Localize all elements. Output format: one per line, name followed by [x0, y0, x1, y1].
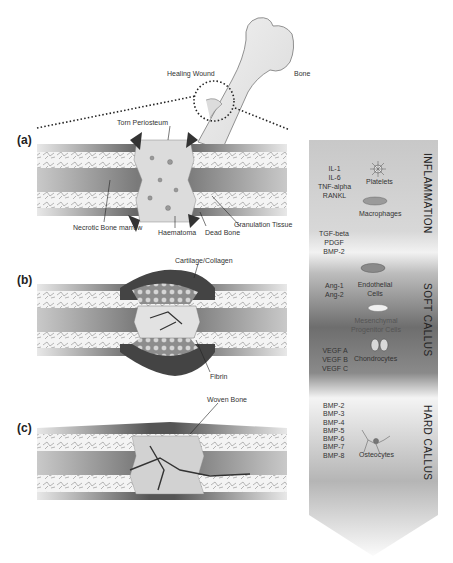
factor-pdgf: PDGF [319, 238, 349, 247]
macrophage-icon [363, 197, 387, 205]
osteocytes-label: Osteocytes [359, 451, 394, 458]
factor-bmp3: BMP-3 [323, 410, 344, 418]
factor-bmp4: BMP-4 [323, 419, 344, 427]
mesenchymal-cell-icon [368, 305, 388, 312]
healing-wound-label: Healing Wound [167, 70, 215, 77]
panel-a-letter: (a) [17, 133, 32, 147]
platelets-label: Platelets [366, 178, 393, 185]
granulation-tissue-label: Granulation Tissue [234, 221, 292, 228]
torn-periosteum-label: Torn Periosteum [117, 119, 168, 126]
factors-soft-1: Ang-1 Ang-2 [325, 281, 344, 299]
factor-tgf-beta: TGF-beta [319, 229, 349, 238]
mesenchymal-label: Mesenchymal Progenitor Cells [350, 316, 402, 334]
factor-rankl: RANKL [318, 191, 351, 200]
factor-vegf-c: VEGF C [322, 364, 348, 373]
macrophages-label: Macrophages [359, 210, 401, 217]
chondrocytes-label: Chondrocytes [354, 355, 397, 362]
stage-soft-callus: SOFT CALLUS [422, 283, 433, 357]
panel-b-letter: (b) [17, 273, 32, 287]
fibrin-label: Fibrin [210, 373, 228, 380]
woven-bone-label: Woven Bone [207, 396, 247, 403]
factor-bmp2: BMP-2 [319, 247, 349, 256]
factor-il1: IL-1 [318, 164, 351, 173]
endothelial-cell-icon [361, 264, 385, 273]
platelet-icon [370, 161, 386, 177]
stage-inflammation: INFLAMMATION [422, 153, 433, 234]
factor-bmp7: BMP-7 [323, 443, 344, 451]
factor-tnf-alpha: TNF-alpha [318, 182, 351, 191]
panel-c-graphic [37, 422, 287, 500]
factor-ang2: Ang-2 [325, 290, 344, 299]
factors-soft-2: VEGF A VEGF B VEGF C [322, 346, 348, 373]
factor-ang1: Ang-1 [325, 281, 344, 290]
bone-label: Bone [294, 70, 310, 77]
dead-bone-label: Dead Bone [205, 229, 240, 236]
panel-c-letter: (c) [17, 421, 32, 435]
haematoma-label: Haematoma [158, 229, 196, 236]
femur-bone [198, 18, 294, 150]
panel-a-graphic [37, 132, 287, 232]
factor-bmp6: BMP-6 [323, 435, 344, 443]
cartilage-collagen-label: Cartilage/Collagen [175, 257, 233, 264]
factor-bmp5: BMP-5 [323, 427, 344, 435]
factors-inflammation-2: TGF-beta PDGF BMP-2 [319, 229, 349, 256]
factors-hard: BMP-2 BMP-3 BMP-4 BMP-5 BMP-6 BMP-7 BMP-… [323, 402, 344, 460]
endothelial-label: Endothelial Cells [355, 280, 395, 298]
factors-inflammation-1: IL-1 IL-6 TNF-alpha RANKL [318, 164, 351, 200]
factor-bmp8: BMP-8 [323, 452, 344, 460]
factor-il6: IL-6 [318, 173, 351, 182]
necrotic-bone-marrow-label: Necrotic Bone marrow [73, 224, 142, 231]
stage-hard-callus: HARD CALLUS [422, 405, 433, 481]
factor-vegf-a: VEGF A [322, 346, 348, 355]
panel-b-graphic [37, 270, 287, 376]
factor-vegf-b: VEGF B [322, 355, 348, 364]
factor-bmp2-hard: BMP-2 [323, 402, 344, 410]
